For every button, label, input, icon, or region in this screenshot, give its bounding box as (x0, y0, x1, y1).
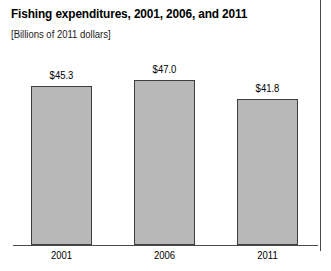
bar-value-label: $47.0 (136, 64, 194, 75)
bar-2011 (237, 99, 298, 245)
category-label-2001: 2001 (33, 250, 91, 261)
bar-2006 (134, 80, 195, 245)
category-label-2006: 2006 (136, 250, 194, 261)
bar-value-label: $45.3 (33, 70, 91, 81)
bar-2001 (31, 86, 92, 245)
x-axis-baseline (13, 245, 318, 246)
figure-right-rule (320, 0, 321, 251)
chart-figure: Fishing expenditures, 2001, 2006, and 20… (0, 0, 331, 271)
bar-value-label: $41.8 (239, 83, 297, 94)
category-label-2011: 2011 (239, 250, 297, 261)
plot-area: $45.3 2001 $47.0 2006 $41.8 2011 (0, 0, 331, 271)
